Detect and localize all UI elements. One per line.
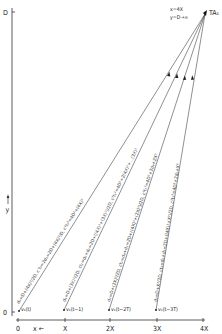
x-axis-label: x ← — [33, 325, 44, 333]
formula-line-0: d₀=D+(4X)²/2D, c't₀=2d₀=2D+(4X)²/D, c²t₀… — [16, 198, 86, 305]
source-label-1: v₁(t−1) — [66, 306, 83, 312]
source-label-0: v₁(t) — [21, 306, 31, 312]
x-tick-3X: 3X — [153, 325, 162, 333]
y-bottom-label: 0 — [3, 309, 7, 317]
apex-coord-y: y=D→∞ — [170, 14, 188, 21]
y-axis-label: y — [6, 206, 10, 214]
source-label-2: v₁(t−2T) — [111, 306, 131, 312]
diagram-canvas: D 0 y x ← 0 X 2X 3X 4X TA₁ x=4X y=D→∞ v₁… — [0, 0, 222, 334]
x-tick-2X: 2X — [106, 325, 115, 333]
source-label-3: v₁(t−3T) — [158, 306, 178, 312]
x-tick-X: X — [63, 325, 68, 333]
formula-line-3: d₃=D+X²/2D, ct₃=d₀+d₃=2D+((4X)²+X²)/2D, … — [153, 163, 181, 302]
ray-lines — [18, 10, 207, 312]
arrowhead-icon — [191, 75, 194, 80]
y-axis — [7, 8, 15, 316]
arrowhead-icon — [183, 75, 186, 80]
apex-coord-x: x=4X — [170, 6, 184, 12]
x-tick-4X: 4X — [200, 325, 209, 333]
formula-line-2: d₂=D+(2X)²/2D, ct₂=d₀+d₂=2D+((4X)²+(2X)²… — [106, 153, 159, 303]
y-top-label: D — [3, 9, 8, 17]
x-axis — [16, 318, 205, 322]
x-tick-0: 0 — [16, 325, 20, 333]
apex-label: TA₁ — [208, 9, 220, 17]
